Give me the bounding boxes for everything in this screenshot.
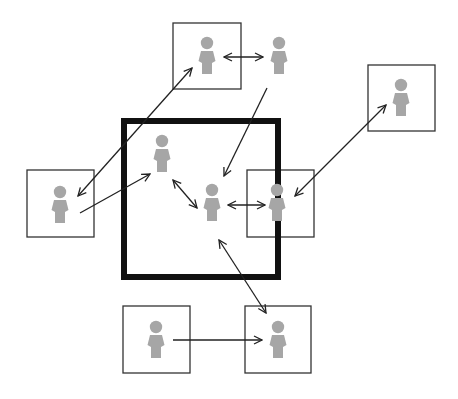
boundary-square (124, 121, 278, 277)
arrow-a-inner-center (173, 180, 197, 208)
arrow-a-right-midright (295, 105, 386, 196)
arrow-a-topfree-center (224, 88, 267, 176)
person-icon (148, 321, 165, 358)
boundary-layer (124, 121, 278, 277)
network-diagram (0, 0, 458, 399)
person-icon (52, 186, 69, 223)
person-icon (154, 135, 171, 172)
person-icon (199, 37, 216, 74)
person-icon (204, 184, 221, 221)
diagram-canvas: Network of people inside and outside a b… (0, 0, 458, 399)
person-icon (269, 184, 286, 221)
person-icon (271, 37, 288, 74)
boxes-layer (27, 23, 435, 373)
person-icon (270, 321, 287, 358)
arrow-a-left-top (78, 68, 192, 196)
people-layer (52, 37, 410, 358)
person-icon (393, 79, 410, 116)
arrow-a-left-inner (80, 174, 150, 213)
